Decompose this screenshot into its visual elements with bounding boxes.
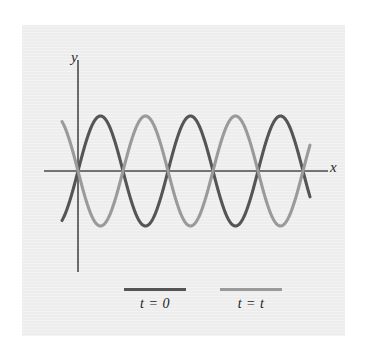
legend-label-tt: t = t (238, 296, 265, 312)
figure-root: y x t = 0 t = t (0, 0, 379, 361)
legend-label-t0: t = 0 (140, 296, 170, 312)
x-axis-label: x (330, 160, 337, 175)
legend: t = 0 t = t (118, 288, 288, 330)
legend-swatch-tt (220, 288, 282, 291)
legend-swatch-t0 (124, 288, 186, 291)
legend-entry-t0: t = 0 (118, 288, 192, 312)
legend-entry-tt: t = t (214, 288, 288, 312)
y-axis-label: y (71, 50, 78, 65)
